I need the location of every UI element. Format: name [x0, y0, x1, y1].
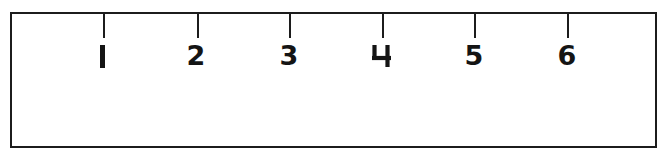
- tick-mark-3: [289, 13, 291, 38]
- tick-mark-4: [382, 13, 384, 38]
- tick-label-2: 2: [176, 42, 216, 70]
- tick-mark-5: [474, 13, 476, 38]
- tick-label-4: [362, 42, 402, 70]
- tick-label-5: 5: [454, 42, 494, 70]
- tick-mark-2: [197, 13, 199, 38]
- ruler-rectangle: [10, 12, 657, 148]
- tick-label-6: 6: [547, 42, 587, 70]
- tick-label-1: 1: [82, 42, 122, 70]
- tick-label-3: 3: [269, 42, 309, 70]
- number-line-figure: 1 2 3 5 6: [0, 0, 667, 159]
- tick-mark-6: [567, 13, 569, 38]
- tick-mark-1: [103, 13, 105, 38]
